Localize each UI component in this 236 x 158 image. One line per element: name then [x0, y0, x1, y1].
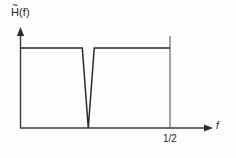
x-axis-label: f [216, 121, 219, 131]
y-axis-arrowhead [17, 27, 24, 36]
response-curve [21, 48, 171, 128]
tilde-accent-icon: ~ [11, 1, 19, 11]
notch-response-plot [0, 0, 236, 158]
figure-container: ~ H (f) f 1/2 [0, 0, 236, 158]
x-axis-arrowhead [204, 124, 213, 131]
y-axis [17, 27, 24, 128]
x-tick-label-half: 1/2 [163, 134, 177, 144]
x-axis [20, 124, 213, 131]
y-axis-label-base-wrap: ~ H [11, 7, 19, 18]
y-axis-label: ~ H (f) [11, 7, 30, 18]
y-axis-label-arg: (f) [19, 6, 30, 18]
